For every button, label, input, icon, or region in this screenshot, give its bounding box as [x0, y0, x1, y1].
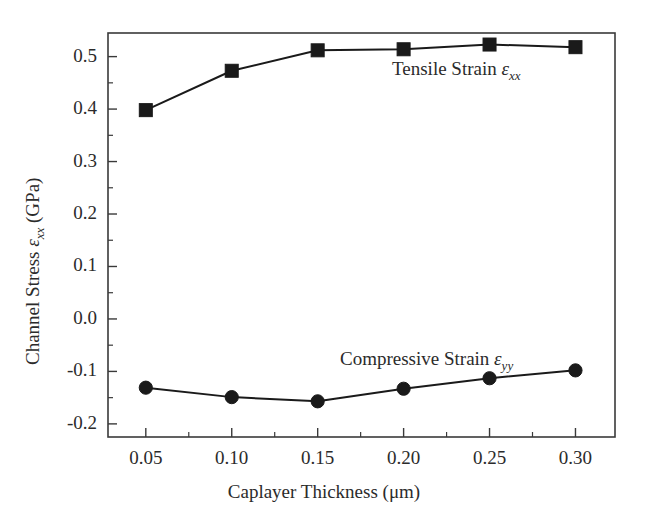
y-axis-title-suffix: (GPa) — [22, 178, 43, 228]
y-axis-title-subscript: xx — [32, 228, 47, 240]
y-axis-title-symbol: ε — [22, 239, 43, 247]
x-tick-label: 0.20 — [364, 447, 444, 469]
tensile-label-subscript: xx — [509, 68, 521, 83]
compressive-label-symbol: ε — [494, 348, 502, 369]
y-tick-label: 0.3 — [73, 150, 97, 172]
y-tick-label: 0.5 — [73, 45, 97, 67]
tensile-label-symbol: ε — [501, 58, 509, 79]
y-tick-label: 0.0 — [73, 307, 97, 329]
x-tick-label: 0.15 — [278, 447, 358, 469]
axis-ticks — [108, 57, 575, 437]
y-tick-label: -0.1 — [67, 359, 97, 381]
y-tick-label: -0.2 — [67, 412, 97, 434]
series-annotation-tensile: Tensile Strain εxx — [392, 58, 521, 84]
figure-container: 0.50.40.30.20.10.0-0.1-0.2 0.050.100.150… — [0, 0, 648, 530]
x-tick-label: 0.30 — [535, 447, 615, 469]
x-axis-title: Caplayer Thickness (μm) — [0, 481, 648, 503]
compressive-label-prefix: Compressive Strain — [340, 348, 494, 369]
x-tick-label: 0.10 — [192, 447, 272, 469]
x-tick-label: 0.25 — [450, 447, 530, 469]
tensile-label-prefix: Tensile Strain — [392, 58, 501, 79]
y-tick-label: 0.1 — [73, 254, 97, 276]
y-axis-title-prefix: Channel Stress — [22, 247, 43, 365]
y-axis-title: Channel Stress εxx (GPa) — [22, 178, 48, 365]
compressive-label-subscript: yy — [502, 358, 514, 373]
y-tick-label: 0.4 — [73, 97, 97, 119]
y-tick-label: 0.2 — [73, 202, 97, 224]
series-annotation-compressive: Compressive Strain εyy — [340, 348, 513, 374]
x-tick-label: 0.05 — [106, 447, 186, 469]
